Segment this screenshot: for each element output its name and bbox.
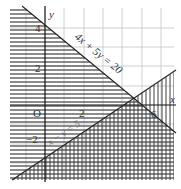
tick-label-x-2: 2	[79, 107, 85, 119]
tick-label-y-neg2: −2	[26, 133, 38, 145]
tick-label-y-4: 4	[35, 22, 41, 34]
inequality-graph: y x O 2 6 4 2 −2 4x + 5y = 20 x − y = 5	[0, 0, 181, 189]
x-axis-label: x	[169, 93, 175, 105]
tick-label-y-2: 2	[35, 62, 41, 74]
y-axis-label: y	[48, 8, 54, 20]
tick-label-x-6: 6	[151, 108, 157, 120]
origin-label: O	[33, 107, 41, 119]
